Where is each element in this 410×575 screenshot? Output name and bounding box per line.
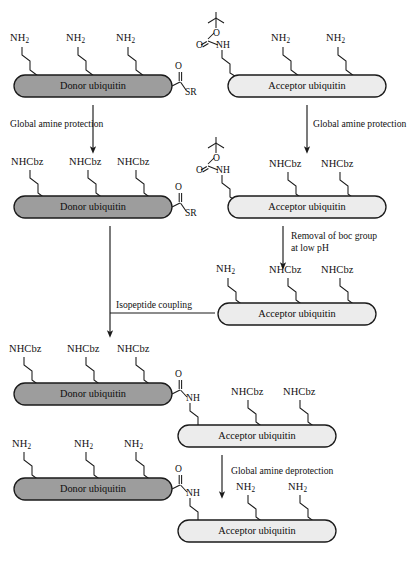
final-amide-nh-label: NH [186, 487, 200, 498]
final-donor-sidechain-1 [24, 452, 40, 481]
boc-oxygen-ester-label-1: O [213, 27, 220, 38]
final-donor-sidechain-2 [86, 452, 102, 481]
final-acceptor-sidechain-1 [248, 495, 264, 523]
thioester-sr-label-1: SR [185, 86, 197, 97]
step-label-isopeptide-coupling: Isopeptide coupling [116, 299, 192, 310]
final-acceptor-amine-label-2: NH2 [288, 481, 307, 494]
acceptor-cbz-sidechain-r3-2 [288, 278, 304, 306]
final-donor-sidechain-3 [136, 452, 152, 481]
thioester-oxygen-label-2: O [175, 181, 182, 192]
donor-cbz-sidechain-1 [30, 170, 46, 199]
final-donor-amine-label-1: NH2 [12, 438, 31, 451]
acceptor-cbz-label-r3-3: NHCbz [321, 264, 354, 276]
final-donor-amine-label-3: NH2 [124, 438, 143, 451]
donor-amine-label-2: NH2 [66, 32, 85, 45]
thioester-bond-c [172, 82, 180, 86]
thioester-oxygen-label-1: O [175, 60, 182, 71]
donor-ubiquitin-label-2: Donor ubiquitin [14, 201, 172, 212]
boc-oxygen-carbonyl-label-1: O [196, 39, 203, 50]
final-acceptor-amine-label-1: NH2 [236, 481, 255, 494]
conj-acceptor-cbz-label-1: NHCbz [231, 386, 264, 398]
donor-cbz-label-1: NHCbz [11, 156, 44, 168]
donor-cbz-sidechain-2 [88, 170, 104, 199]
conj-donor-cbz-label-2: NHCbz [67, 343, 100, 355]
final-amide-oxygen-label: O [175, 463, 182, 474]
conj-amide-nh-label: NH [186, 392, 200, 403]
final-donor-ubiquitin-label: Donor ubiquitin [14, 483, 172, 494]
boc-oxygen-ester-label-2: O [213, 152, 220, 163]
donor-sidechain-3 [128, 47, 144, 76]
step-label-global-amine-protection-1: Global amine protection [10, 118, 103, 129]
conj-acceptor-cbz-label-2: NHCbz [283, 386, 316, 398]
boc-nh-label-2: NH [216, 164, 230, 175]
final-acceptor-sidechain-2 [300, 495, 316, 523]
conj-acceptor-sidechain-1 [248, 400, 264, 428]
boc-oxygen-carbonyl-label-2: O [196, 164, 203, 175]
conj-donor-sidechain-1 [24, 357, 40, 386]
donor-cbz-label-2: NHCbz [69, 156, 102, 168]
step-label-global-amine-protection-2: Global amine protection [313, 118, 406, 129]
donor-amine-label-1: NH2 [10, 32, 29, 45]
acceptor-sidechain-boc [222, 50, 238, 78]
acceptor-amine-label-3: NH2 [326, 32, 345, 45]
donor-amine-label-3: NH2 [116, 32, 135, 45]
conj-donor-sidechain-2 [86, 357, 102, 386]
conj-amide-oxygen-label: O [175, 368, 182, 379]
step-label-boc-removal-line1: Removal of boc group [291, 230, 377, 241]
acceptor-ubiquitin-label-1: Acceptor ubiquitin [228, 80, 386, 91]
conj-donor-ubiquitin-label: Donor ubiquitin [14, 388, 172, 399]
acceptor-amine-label-2: NH2 [271, 32, 290, 45]
acceptor-cbz-label-2: NHCbz [269, 158, 302, 170]
donor-ubiquitin-label-1: Donor ubiquitin [14, 80, 172, 91]
thioester-sr-label-2: SR [185, 207, 197, 218]
donor-cbz-label-3: NHCbz [117, 156, 150, 168]
step-label-global-amine-deprotection: Global amine deprotection [231, 465, 333, 476]
acceptor-sidechain-2 [283, 47, 299, 76]
thioester-bond-c-2 [172, 203, 180, 207]
acceptor-ubiquitin-label-2: Acceptor ubiquitin [228, 201, 386, 212]
final-bond-to-carbonyl [172, 485, 180, 489]
donor-sidechain-2 [78, 47, 94, 76]
boc-nh-label-1: NH [216, 39, 230, 50]
acceptor-free-amine-sidechain [228, 278, 244, 306]
conj-bond-to-carbonyl [172, 390, 180, 394]
conj-donor-cbz-label-3: NHCbz [117, 343, 150, 355]
step-label-boc-removal-line2: at low pH [291, 242, 329, 253]
conj-donor-cbz-label-1: NHCbz [9, 343, 42, 355]
acceptor-ubiquitin-label-3: Acceptor ubiquitin [218, 308, 376, 319]
acceptor-cbz-sidechain-r3-3 [340, 278, 356, 306]
acceptor-cbz-label-r3-2: NHCbz [269, 264, 302, 276]
donor-cbz-sidechain-3 [136, 170, 152, 199]
acceptor-sidechain-3 [338, 47, 354, 76]
acceptor-cbz-label-3: NHCbz [321, 158, 354, 170]
donor-sidechain-1 [22, 47, 38, 76]
final-donor-amine-label-2: NH2 [74, 438, 93, 451]
conj-donor-sidechain-3 [136, 357, 152, 386]
acceptor-free-amine-label: NH2 [216, 263, 235, 276]
conj-acceptor-sidechain-2 [300, 400, 316, 428]
conj-acceptor-ubiquitin-label: Acceptor ubiquitin [178, 430, 336, 441]
final-acceptor-ubiquitin-label: Acceptor ubiquitin [178, 525, 336, 536]
